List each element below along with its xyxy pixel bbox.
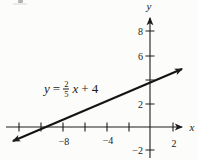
x-tick-label: −8 [59,136,70,147]
y-tick-label: −2 [132,145,143,156]
equation-lhs: y [44,81,50,97]
fraction-denominator: 5 [63,88,69,98]
equation-tail: + 4 [81,81,98,97]
coordinate-plane: y x 8 6 2 −2 −8 −4 2 [0,0,198,160]
textbook-graph-figure: y x 8 6 2 −2 −8 −4 2 y = 2 5 x + 4 [0,0,198,160]
equation-fraction: 2 5 [63,80,69,98]
x-axis-label: x [189,121,195,133]
y-axis-label: y [146,0,152,12]
y-tick-label: 6 [138,51,143,62]
equation-variable: x [72,81,78,97]
x-tick-label: −4 [103,135,114,146]
fraction-numerator: 2 [63,80,69,89]
y-tick-label: 2 [138,99,143,110]
x-tick-label: 2 [172,138,177,149]
y-tick-label: 8 [138,26,143,37]
equation-equals: = [53,81,60,97]
equation-label: y = 2 5 x + 4 [44,79,98,99]
